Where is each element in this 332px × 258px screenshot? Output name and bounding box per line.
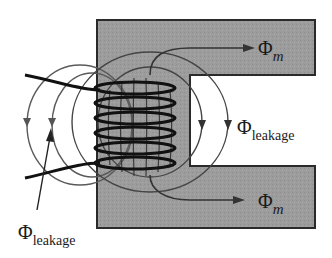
leakage-flux-arrows-right — [198, 120, 232, 130]
phi-leakage-left-label: Φleakage — [18, 222, 75, 248]
leakage-pointer-arrow — [37, 128, 54, 210]
leakage-flux-arrows-left — [23, 118, 56, 127]
phi-m-bottom-label: Φm — [258, 191, 283, 217]
transformer-leakage-flux-diagram: Φm Φm Φleakage Φleakage — [0, 0, 332, 258]
phi-leakage-right-label: Φleakage — [237, 117, 294, 143]
phi-m-top-label: Φm — [258, 38, 283, 64]
